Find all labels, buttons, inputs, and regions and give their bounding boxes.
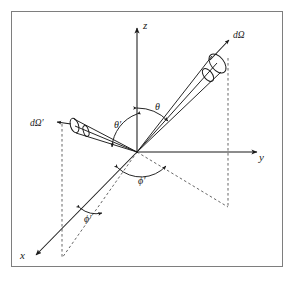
angle-label-phi-prime: ϕ′ [84, 213, 92, 224]
cone-domega-prime-direction-arrow [57, 122, 71, 124]
axis-label-x: x [19, 249, 25, 261]
angle-label-theta-prime: θ′ [114, 119, 122, 130]
cone-domega-direction-arrow [210, 40, 229, 60]
axis-label-z: z [142, 19, 148, 31]
angle-arc-theta-prime: θ′ [112, 114, 137, 147]
projection-ray-domega-prime-ground [62, 152, 137, 258]
angle-arc-theta-path [137, 108, 168, 121]
cone-domega-prime-axis-ray [75, 126, 137, 152]
scattering-geometry-diagram: z y x dΩ [0, 0, 296, 282]
figure-root: z y x dΩ [0, 0, 296, 282]
cone-domega [137, 51, 229, 152]
angle-label-theta: θ [155, 101, 160, 112]
cone-domega-edge-lower [137, 72, 221, 152]
axis-y: y [137, 151, 264, 163]
cone-domega-axis-ray [137, 63, 217, 152]
projection-lines [62, 58, 228, 258]
cone-domega-edge-upper [137, 56, 212, 152]
solid-angle-label-domega-prime: dΩ′ [30, 118, 45, 128]
cone-domega-prime [68, 117, 137, 152]
angle-arc-phi-prime: ϕ′ [80, 208, 102, 224]
angle-label-phi: ϕ′ [138, 175, 146, 186]
solid-angle-label-domega: dΩ [233, 30, 245, 40]
axis-z: z [137, 19, 148, 152]
axis-x-line [36, 152, 137, 255]
axis-x: x [19, 152, 137, 261]
projection-ray-domega-ground [137, 152, 228, 207]
origin-point [136, 151, 138, 153]
axis-label-y: y [258, 151, 264, 163]
